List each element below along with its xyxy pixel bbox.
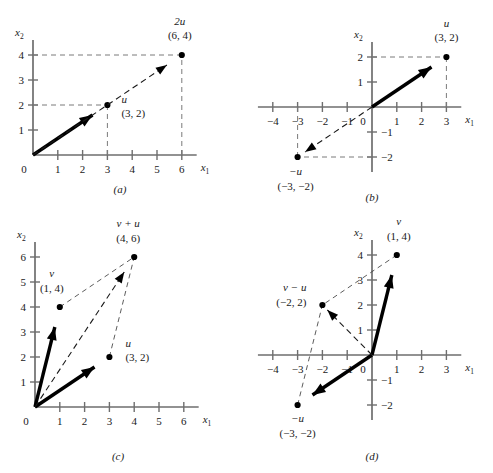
panel-a-ytick-label: 3: [19, 74, 25, 86]
panel-d-ytick-label: 3: [358, 274, 364, 286]
panel-b-vector--u-shaft: [305, 107, 372, 152]
panel-a-vector-2u-arrowhead: [155, 65, 166, 75]
panel-c-plot: 0123456123456x1x2v(1, 4)u(3, 2)v + u(4, …: [0, 210, 247, 473]
panel-a-plot: 01234561234x1x2u(3, 2)2u(6, 4)(a): [0, 0, 247, 200]
panel-c-label-u: u: [125, 337, 131, 349]
panel-d-ytick-label: 2: [358, 299, 364, 311]
panel-a-point-2u: [179, 52, 185, 58]
panel-b-coords-u: (3, 2): [434, 31, 458, 44]
panel-a-coords-2u: (6, 4): [168, 29, 192, 42]
panel-b-ytick-label: 1: [358, 76, 364, 88]
panel-d-x-axis-label: x1: [464, 361, 474, 376]
panel-c: 0123456123456x1x2v(1, 4)u(3, 2)v + u(4, …: [0, 210, 247, 473]
panel-c-xtick-label: 0: [23, 415, 29, 427]
panel-d-ytick-label: 4: [358, 249, 364, 261]
panel-c-y-axis-label: x2: [16, 228, 26, 243]
panel-b-point-u: [443, 54, 449, 60]
panel-d-xtick-label: 3: [444, 363, 450, 375]
panel-c-xtick-label: 5: [156, 415, 162, 427]
panel-d-xtick-label: 2: [419, 363, 425, 375]
panel-b-xtick-label: 0: [360, 115, 366, 127]
panel-c-parallelogram-edge: [60, 257, 134, 307]
panel-c-x-axis-label: x1: [202, 413, 212, 428]
panel-d-xtick-label: −2: [317, 363, 329, 375]
panel-c-xtick-label: 6: [181, 415, 187, 427]
panel-c-ytick-label: 6: [21, 251, 27, 263]
panel-c-point-v+u: [131, 254, 137, 260]
panel-a-label-u: u: [121, 93, 127, 105]
panel-d-ytick-label: −1: [381, 374, 393, 386]
panel-a-xtick-label: 4: [129, 163, 135, 175]
panel-b-vector--u-arrowhead: [305, 142, 316, 152]
panel-d-coords-v-u: (−2, 2): [276, 296, 306, 309]
panel-c-point-v: [57, 304, 63, 310]
panel-a-xtick-label: 2: [80, 163, 86, 175]
panel-c-ytick-label: 4: [21, 301, 27, 313]
panel-d-caption: (d): [366, 450, 379, 463]
panel-c-vector-v+u-arrowhead: [115, 272, 125, 283]
panel-a: 01234561234x1x2u(3, 2)2u(6, 4)(a): [0, 0, 247, 200]
panel-a-point-u: [104, 102, 110, 108]
panel-b-label-u: u: [444, 17, 450, 29]
panel-a-xtick-label: 6: [179, 163, 185, 175]
panel-b-label--u: −u: [289, 165, 302, 177]
panel-a-label-2u: 2u: [174, 15, 186, 27]
panel-b-ytick-label: 2: [358, 51, 364, 63]
panel-a-y-axis-label: x2: [14, 26, 24, 41]
panel-c-ytick-label: 3: [21, 326, 27, 338]
panel-c-coords-v+u: (4, 6): [116, 232, 140, 245]
panel-a-caption: (a): [114, 183, 127, 196]
panel-c-xtick-label: 2: [82, 415, 88, 427]
panel-d-label-v-u: v − u: [283, 281, 307, 293]
panel-a-ytick-label: 1: [19, 124, 25, 136]
panel-d-coords-v: (1, 4): [387, 230, 411, 243]
panel-c-ytick-label: 2: [21, 351, 27, 363]
panel-d-y-axis-label: x2: [353, 226, 363, 241]
panel-d-xtick-label: 0: [360, 363, 366, 375]
panel-a-coords-u: (3, 2): [121, 107, 145, 120]
panel-d-label--u: −u: [291, 412, 304, 424]
panel-a-x-axis-label: x1: [200, 161, 210, 176]
panel-d-ytick-label: 1: [358, 324, 364, 336]
panel-a-xtick-label: 5: [154, 163, 160, 175]
panel-d-plot: −4−3−2−10123−2−11234x1x2v(1, 4)−u(−3, −2…: [247, 210, 493, 473]
panel-c-caption: (c): [112, 450, 125, 463]
panel-a-vector-2u-shaft: [33, 65, 167, 155]
panel-c-label-v: v: [49, 267, 54, 279]
panel-b-coords--u: (−3, −2): [277, 180, 314, 193]
panel-d-point-v-u: [319, 302, 325, 308]
panel-c-ytick-label: 1: [21, 376, 27, 388]
panel-d-point--u: [295, 402, 301, 408]
panel-d-point-v: [394, 252, 400, 258]
panel-b-plot: −4−3−2−10123−2−112x1x2u(3, 2)−u(−3, −2)(…: [247, 0, 493, 210]
panel-a-xtick-label: 3: [105, 163, 111, 175]
panel-b-xtick-label: −4: [267, 115, 279, 127]
panel-c-xtick-label: 1: [57, 415, 63, 427]
panel-b-xtick-label: −2: [317, 115, 329, 127]
panel-d-xtick-label: 1: [394, 363, 400, 375]
panel-a-xtick-label: 0: [21, 163, 27, 175]
panel-c-coords-u: (3, 2): [125, 351, 149, 364]
panel-a-ytick-label: 4: [19, 49, 25, 61]
panel-d-coords--u: (−3, −2): [279, 427, 316, 440]
panel-b-xtick-label: 1: [394, 115, 400, 127]
panel-b-caption: (b): [366, 191, 379, 204]
panel-d-xtick-label: −4: [267, 363, 279, 375]
panel-d-xtick-label: −3: [292, 363, 304, 375]
panel-b: −4−3−2−10123−2−112x1x2u(3, 2)−u(−3, −2)(…: [247, 0, 493, 210]
panel-b-point--u: [295, 154, 301, 160]
panel-c-coords-v: (1, 4): [40, 282, 64, 295]
panel-a-ytick-label: 2: [19, 99, 25, 111]
panel-c-ytick-label: 5: [21, 276, 27, 288]
panel-d-ytick-label: −2: [381, 399, 393, 411]
panel-d-label-v: v: [396, 215, 401, 227]
panel-b-ytick-label: −1: [381, 126, 393, 138]
vector-figure: 01234561234x1x2u(3, 2)2u(6, 4)(a)−4−3−2−…: [0, 0, 493, 473]
panel-c-point-u: [106, 354, 112, 360]
panel-c-xtick-label: 3: [107, 415, 113, 427]
panel-b-xtick-label: 3: [444, 115, 450, 127]
panel-b-x-axis-label: x1: [464, 113, 474, 128]
panel-b-ytick-label: −2: [381, 151, 393, 163]
panel-b-xtick-label: 2: [419, 115, 425, 127]
panel-d: −4−3−2−10123−2−11234x1x2v(1, 4)−u(−3, −2…: [247, 210, 493, 473]
